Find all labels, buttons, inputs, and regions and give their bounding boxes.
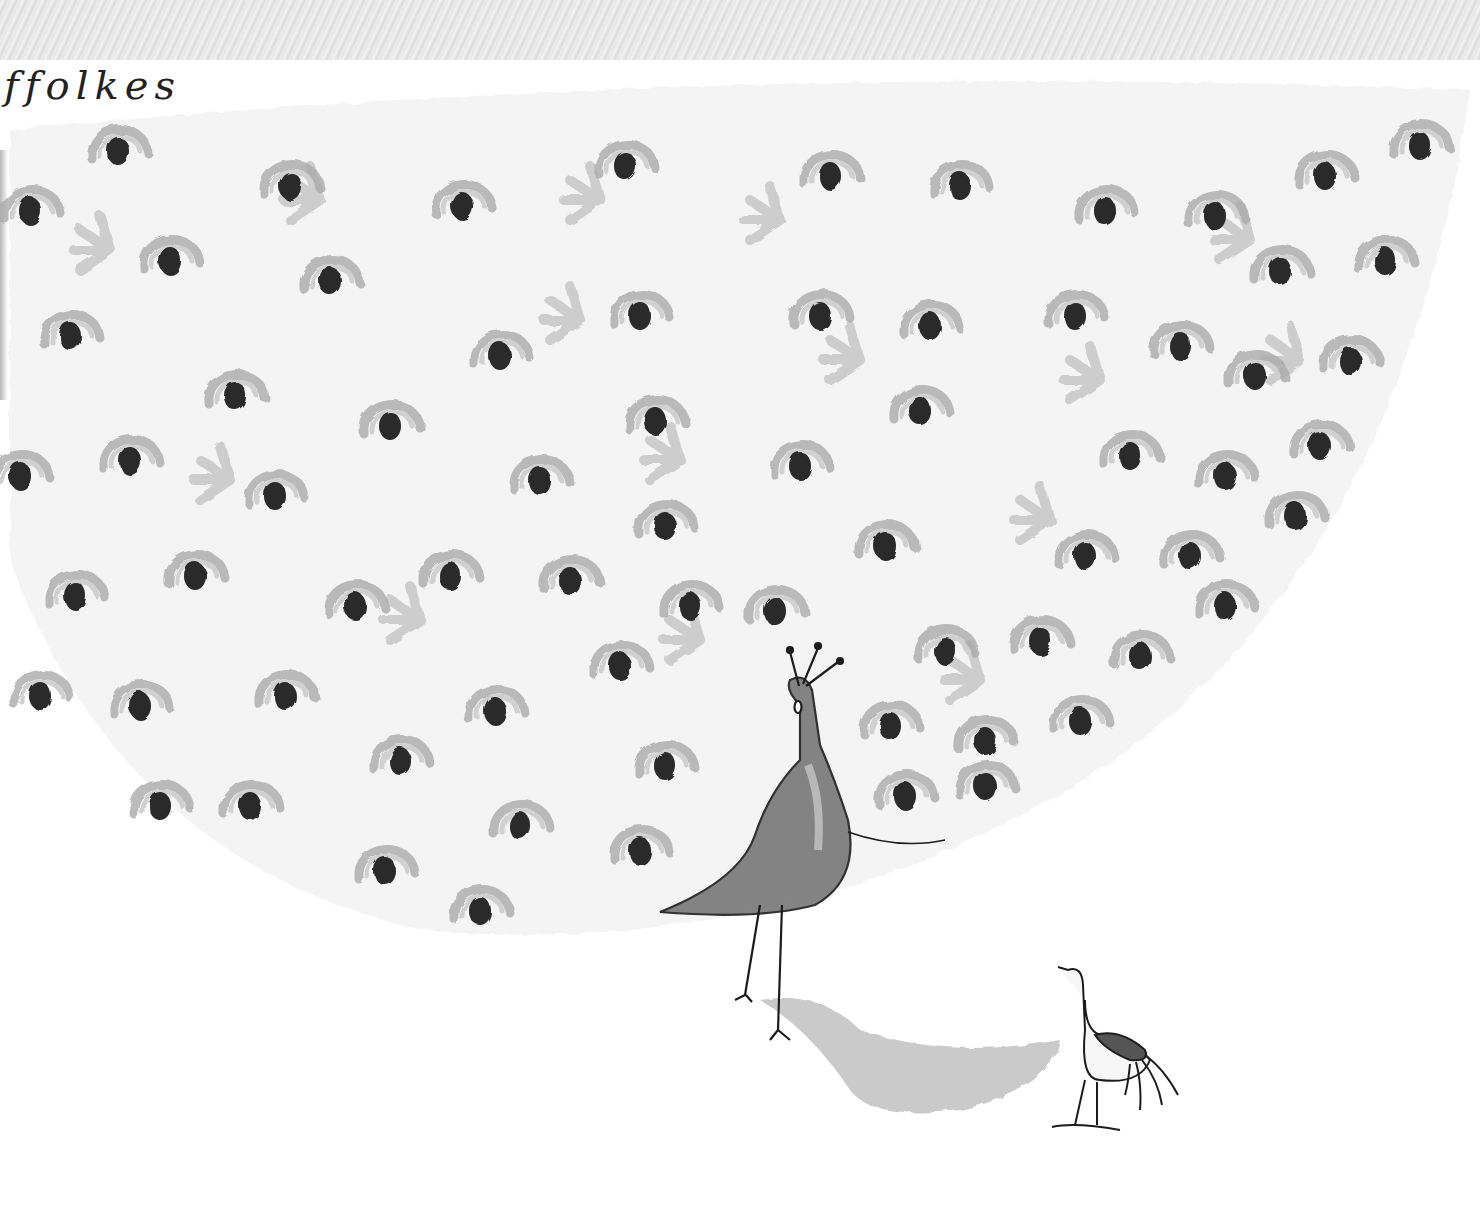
peacock-illustration — [0, 0, 1480, 1226]
tail-fan-wash — [10, 81, 1470, 935]
peacock-shadow — [760, 998, 1060, 1113]
peahen — [1052, 967, 1178, 1130]
